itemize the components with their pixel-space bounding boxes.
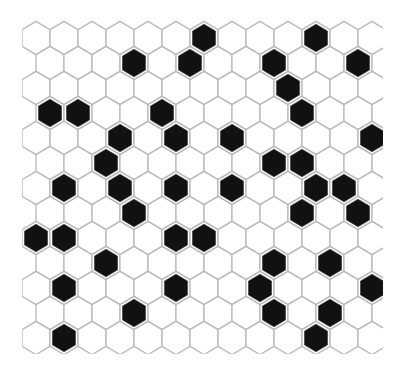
tile-grid — [22, 21, 400, 354]
hexagon-tile-pattern — [0, 0, 402, 372]
hex-grid-canvas — [0, 0, 402, 372]
